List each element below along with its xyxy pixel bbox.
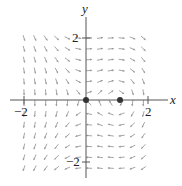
y-tick-label-neg2: −2 [66, 154, 80, 169]
arrow-head-icon [97, 167, 99, 169]
x-tick-label-2: 2 [145, 104, 152, 119]
arrow-head-icon [142, 104, 144, 106]
arrow-head-icon [90, 69, 92, 71]
arrow-head-icon [112, 48, 114, 50]
arrow-head-icon [23, 93, 25, 95]
arrow-head-icon [34, 93, 36, 95]
arrow-head-icon [119, 146, 121, 148]
arrow-head-icon [45, 104, 47, 106]
vector-field-arrows [23, 35, 146, 171]
arrow-head-icon [90, 37, 92, 39]
x-tick-label-neg2: −2 [14, 104, 28, 119]
arrow-head-icon [108, 156, 110, 158]
arrow-head-icon [45, 93, 47, 95]
arrow-head-icon [108, 167, 110, 169]
arrow-head-icon [34, 104, 36, 106]
arrow-head-icon [23, 82, 25, 84]
arrow-head-icon [112, 37, 114, 39]
equilibrium-point-origin [83, 97, 89, 103]
arrow-head-icon [119, 156, 121, 158]
arrow-head-icon [108, 145, 110, 147]
vector-field-diagram: x y −2 2 2 −2 [0, 0, 182, 186]
y-axis-label: y [80, 1, 88, 16]
equilibrium-point-1-0 [117, 97, 123, 103]
y-tick-label-2: 2 [72, 30, 79, 45]
arrow-head-icon [90, 48, 92, 50]
arrow-head-icon [90, 59, 92, 61]
arrow-head-icon [119, 167, 121, 169]
arrow-head-icon [55, 104, 57, 106]
x-axis-label: x [169, 92, 176, 107]
arrow-head-icon [66, 104, 68, 106]
